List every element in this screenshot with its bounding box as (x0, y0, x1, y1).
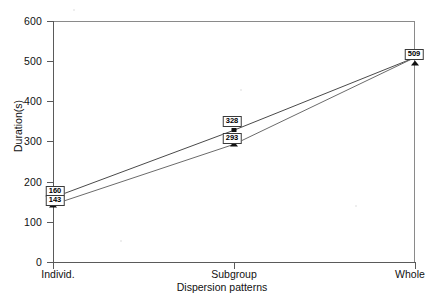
data-label-328: 328 (223, 116, 242, 127)
y-axis-tick (47, 182, 54, 183)
chart-figure: 600 500 400 300 200 100 0 Individ. Subgr… (0, 0, 444, 302)
x-axis-tick-label-whole: Whole (395, 268, 425, 280)
y-axis-tick-label: 600 (0, 16, 42, 26)
y-axis-tick (47, 61, 54, 62)
y-axis-tick (47, 21, 54, 22)
x-axis-tick-label-individ: Individ. (41, 268, 74, 280)
data-label-293: 293 (223, 133, 242, 144)
x-axis-title: Dispersion patterns (0, 281, 444, 293)
x-axis-tick-label-subgroup: Subgroup (211, 268, 257, 280)
y-axis-tick-label: 200 (0, 177, 42, 187)
y-axis-tick (47, 141, 54, 142)
y-axis-tick (47, 101, 54, 102)
y-axis-tick-label: 500 (0, 56, 42, 66)
y-axis-tick (47, 222, 54, 223)
scan-speck (73, 9, 75, 11)
data-label-509: 509 (405, 49, 424, 60)
y-axis-tick-label: 100 (0, 217, 42, 227)
y-axis-tick-label: 0 (0, 257, 42, 267)
y-axis-title: Duration(s) (12, 76, 24, 176)
data-label-143: 143 (46, 195, 65, 206)
